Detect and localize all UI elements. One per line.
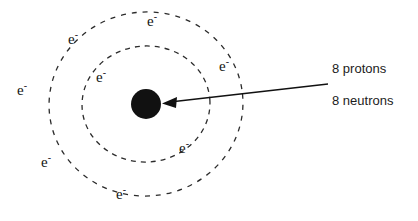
electron-label-inner-2: e- — [179, 139, 189, 156]
proton-count-label: 8 protons — [332, 62, 386, 75]
electron-label-outer-4: e- — [17, 81, 27, 98]
electron-symbol: e — [147, 13, 154, 29]
electron-symbol: e — [41, 154, 48, 170]
electron-charge: - — [103, 67, 106, 78]
electron-charge: - — [123, 184, 126, 195]
electron-label-outer-3: e- — [219, 57, 229, 74]
electron-charge: - — [226, 56, 229, 67]
arrow-head-icon — [162, 97, 177, 108]
electron-symbol: e — [68, 31, 75, 47]
electron-label-inner-1: e- — [96, 68, 106, 85]
electron-charge: - — [154, 11, 157, 22]
electron-symbol: e — [219, 58, 226, 74]
electron-charge: - — [186, 138, 189, 149]
electron-label-outer-1: e- — [68, 30, 78, 47]
electron-label-outer-5: e- — [41, 153, 51, 170]
atom-diagram-canvas — [0, 0, 418, 221]
electron-label-outer-6: e- — [116, 185, 126, 202]
electron-symbol: e — [96, 69, 103, 85]
electron-charge: - — [75, 29, 78, 40]
neutron-count-label: 8 neutrons — [332, 94, 393, 107]
electron-symbol: e — [179, 140, 186, 156]
electron-charge: - — [48, 152, 51, 163]
nucleus-arrow — [162, 84, 328, 108]
electron-symbol: e — [17, 82, 24, 98]
electron-charge: - — [24, 80, 27, 91]
electron-symbol: e — [116, 186, 123, 202]
nucleus — [131, 89, 161, 119]
atom-diagram: e- e- e- e- e- e- e- e- 8 protons 8 neut… — [0, 0, 418, 221]
electron-label-outer-2: e- — [147, 12, 157, 29]
